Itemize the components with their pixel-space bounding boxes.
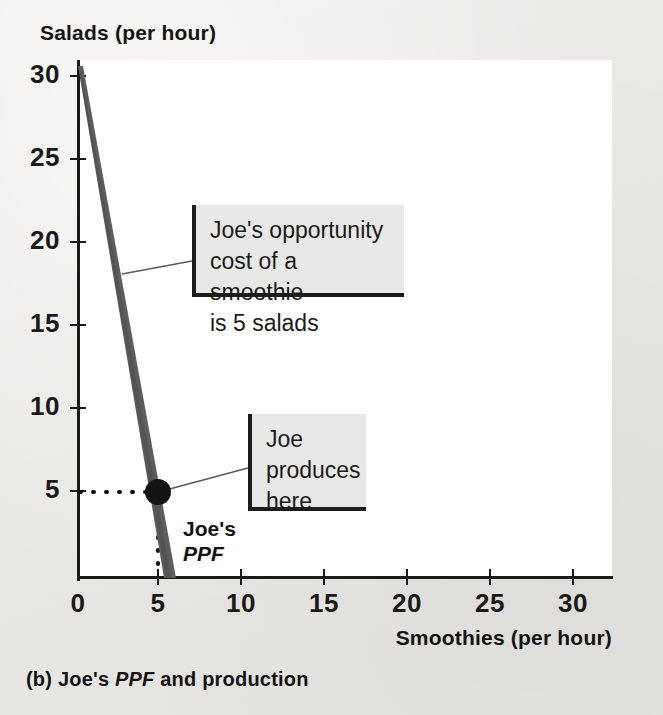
figure-caption: (b) Joe's PPF and production xyxy=(26,668,309,691)
x-tick-20 xyxy=(406,569,408,585)
callout-produces-here-line-2: produces xyxy=(266,455,354,486)
callout-produces-here-line-3: here xyxy=(266,486,354,517)
x-tick-label-15: 15 xyxy=(296,588,352,619)
figure-panel: Salads (per hour) 30 25 20 15 10 5 0 5 1… xyxy=(0,0,663,715)
callout-opportunity-cost-line-1: Joe's opportunity xyxy=(210,215,392,246)
x-tick-label-25: 25 xyxy=(462,588,518,619)
x-tick-25 xyxy=(489,569,491,585)
y-tick-10 xyxy=(70,407,86,409)
caption-italic-ppf: PPF xyxy=(115,668,155,690)
callout-produces-here-line-1: Joe xyxy=(266,424,354,455)
x-tick-label-30: 30 xyxy=(545,588,601,619)
y-tick-20 xyxy=(70,241,86,243)
ppf-curve-label-line-2: PPF xyxy=(183,541,236,566)
x-tick-30 xyxy=(572,569,574,585)
y-tick-label-15: 15 xyxy=(14,308,60,339)
y-tick-label-30: 30 xyxy=(14,59,60,90)
y-tick-30 xyxy=(70,75,86,77)
x-tick-15 xyxy=(323,569,325,585)
y-tick-label-20: 20 xyxy=(14,225,60,256)
callout-opportunity-cost-line-3: is 5 salads xyxy=(210,308,392,339)
x-tick-10 xyxy=(240,569,242,585)
y-tick-5 xyxy=(70,490,86,492)
callout-produces-here: Joe produces here xyxy=(248,414,366,511)
x-tick-label-5: 5 xyxy=(130,588,186,619)
y-tick-label-25: 25 xyxy=(14,142,60,173)
x-tick-label-10: 10 xyxy=(213,588,269,619)
callout-opportunity-cost: Joe's opportunity cost of a smoothie is … xyxy=(192,205,404,297)
y-tick-label-5: 5 xyxy=(14,474,60,505)
y-tick-15 xyxy=(70,324,86,326)
caption-prefix: (b) Joe's xyxy=(26,668,115,690)
y-tick-25 xyxy=(70,158,86,160)
x-tick-5 xyxy=(157,569,159,585)
y-tick-label-10: 10 xyxy=(14,391,60,422)
y-axis-title: Salads (per hour) xyxy=(40,21,216,45)
x-tick-label-0: 0 xyxy=(50,588,106,619)
ppf-curve-label-line-1: Joe's xyxy=(183,516,236,541)
caption-suffix: and production xyxy=(155,668,309,690)
ppf-curve-label: Joe's PPF xyxy=(183,516,236,566)
x-tick-label-20: 20 xyxy=(379,588,435,619)
y-axis-line xyxy=(77,60,80,581)
callout-opportunity-cost-line-2: cost of a smoothie xyxy=(210,246,392,308)
x-axis-title: Smoothies (per hour) xyxy=(396,626,612,650)
